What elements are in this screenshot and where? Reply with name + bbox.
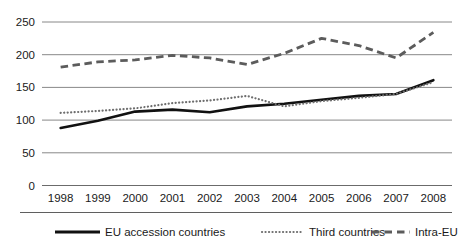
line-chart: 250200150100500 199819992000200120022003… xyxy=(0,0,466,249)
y-axis-tick-label: 100 xyxy=(16,114,35,126)
series-line-third-countries xyxy=(61,82,434,113)
x-axis-tick-label: 1998 xyxy=(48,192,74,204)
y-axis-tick-label: 50 xyxy=(22,147,35,159)
y-axis-labels: 250200150100500 xyxy=(16,16,35,192)
chart-legend: EU accession countriesThird countriesInt… xyxy=(55,226,458,238)
x-axis-tick-label: 2003 xyxy=(234,192,260,204)
plot-series xyxy=(61,32,434,127)
x-axis-tick-label: 2007 xyxy=(383,192,409,204)
x-axis-tick-label: 2001 xyxy=(160,192,186,204)
legend-item-label: EU accession countries xyxy=(105,226,225,238)
x-axis-tick-label: 2008 xyxy=(421,192,447,204)
gridlines xyxy=(42,22,452,153)
x-axis-labels: 1998199920002001200220032004200520062007… xyxy=(48,192,446,204)
x-axis-tick-label: 1999 xyxy=(85,192,111,204)
x-axis-tick-label: 2004 xyxy=(271,192,297,204)
y-axis-tick-label: 200 xyxy=(16,49,35,61)
x-axis-tick-label: 2005 xyxy=(309,192,335,204)
series-line-intra-eu xyxy=(61,32,434,67)
x-axis-tick-label: 2000 xyxy=(122,192,148,204)
legend-item-label: Intra-EU xyxy=(415,226,458,238)
chart-canvas: 250200150100500 199819992000200120022003… xyxy=(0,0,466,249)
x-axis-tick-label: 2006 xyxy=(346,192,372,204)
x-axis-tick-label: 2002 xyxy=(197,192,223,204)
y-axis-tick-label: 0 xyxy=(29,180,35,192)
y-axis-tick-label: 250 xyxy=(16,16,35,28)
y-axis-tick-label: 150 xyxy=(16,81,35,93)
